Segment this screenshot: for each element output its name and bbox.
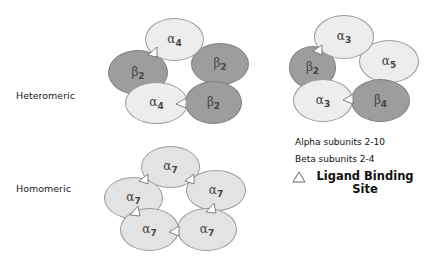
legend-alpha: Alpha subunits 2-10	[295, 137, 385, 147]
subunit-alpha7-bottom-right: α7	[177, 208, 237, 251]
subunit-beta4: β4	[351, 79, 410, 122]
binding-site-triangle-icon	[138, 173, 150, 185]
homomeric-label: Homomeric	[16, 183, 71, 194]
heteromeric-label: Heteromeric	[16, 90, 75, 101]
subunit-beta2-right-bottom: β2	[185, 81, 242, 124]
binding-site-triangle-icon	[147, 46, 159, 58]
binding-site-triangle-icon	[175, 97, 187, 109]
binding-site-triangle-icon	[312, 44, 324, 56]
binding-site-triangle-icon	[184, 173, 196, 185]
legend-beta: Beta subunits 2-4	[295, 154, 374, 164]
binding-site-triangle-icon	[129, 205, 141, 217]
binding-site-triangle-icon	[342, 93, 354, 105]
legend-ligand-binding-site: Ligand Binding Site	[306, 170, 424, 196]
binding-site-triangle-icon	[205, 202, 217, 214]
triangle-icon	[292, 171, 306, 183]
binding-site-triangle-icon	[168, 225, 180, 237]
